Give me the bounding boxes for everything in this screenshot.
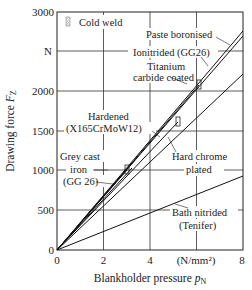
label-plated: plated	[186, 164, 212, 175]
svg-text:1500: 1500	[32, 125, 55, 137]
cold-weld-legend-icon	[66, 17, 70, 26]
x-unit: (N/mm²)	[177, 254, 216, 267]
label-titanium: Titanium	[147, 61, 185, 72]
chart: Cold weld Paste boronised Ionitrided (GG…	[0, 0, 252, 290]
label-carbide-coated: carbide coated	[133, 72, 195, 83]
svg-text:3000: 3000	[32, 6, 55, 18]
y-unit: N	[44, 45, 52, 57]
label-gg26: (GG 26)	[63, 176, 99, 188]
y-axis-ticks: 3000 N 2000 1500 1000 500 0	[32, 6, 55, 256]
label-x165crmow12: (X165CrMoW12)	[66, 123, 142, 135]
svg-text:2: 2	[101, 254, 107, 266]
label-iron: iron	[70, 164, 88, 175]
label-paste-boronised: Paste boronised	[146, 29, 213, 40]
svg-text:0: 0	[54, 254, 60, 266]
svg-text:2000: 2000	[32, 85, 55, 97]
x-axis-label: Blankholder pressure pN	[94, 272, 207, 286]
label-ionitrided: Ionitrided (GG26)	[133, 47, 210, 59]
label-tenifer: (Tenifer)	[179, 220, 217, 232]
label-bath-nitrided: Bath nitrided	[172, 207, 228, 218]
legend-cold-weld: Cold weld	[79, 17, 123, 28]
label-hard-chrome: Hard chrome	[172, 151, 227, 162]
svg-text:8: 8	[239, 254, 245, 266]
y-axis-label: Drawing force FZ	[4, 90, 18, 172]
label-hardened: Hardened	[88, 111, 130, 122]
svg-text:4: 4	[147, 254, 153, 266]
svg-text:1000: 1000	[32, 164, 55, 176]
label-grey-cast: Grey cast	[60, 151, 100, 162]
x-axis-ticks: 0 2 4 (N/mm²) 8	[54, 254, 245, 267]
svg-text:500: 500	[38, 204, 55, 216]
